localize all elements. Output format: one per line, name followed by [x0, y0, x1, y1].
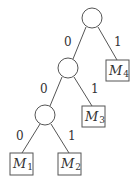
edge-label-n2-m1: 0: [16, 129, 24, 143]
edge-n2-m1: [22, 124, 40, 153]
root-node: [82, 8, 102, 28]
internal-node-1: [58, 58, 78, 78]
edge-label-root-m4: 1: [114, 35, 122, 49]
edge-n2-m2: [51, 124, 69, 153]
internal-node-2: [35, 105, 55, 125]
edge-n1-m3: [74, 77, 92, 106]
edge-label-n2-m2: 1: [68, 129, 76, 143]
edge-label-n1-m3: 1: [91, 82, 99, 96]
edge-root-n1: [73, 27, 86, 59]
edge-label-root-n1: 0: [64, 35, 72, 49]
edge-n1-n2: [50, 77, 62, 106]
binary-tree-diagram: M4 M3 M1 M2 0 1 0 1 0 1: [0, 0, 136, 188]
edge-label-n1-n2: 0: [40, 82, 48, 96]
